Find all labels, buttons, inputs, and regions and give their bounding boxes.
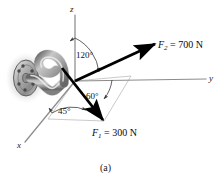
figure-graphics [0,0,221,182]
force-label-F1-subscript: 1 [98,132,102,140]
arc-60 [104,80,112,99]
force-label-F1: F1 = 300 N [92,128,137,138]
angle-label-120: 120° [76,51,93,60]
z-axis-label: z [70,5,74,14]
coordinate-axes [25,15,206,142]
force-label-F2: F2 = 700 N [158,40,203,50]
angle-label-45: 45° [58,107,71,116]
force-label-F2-subscript: 2 [164,44,168,52]
y-axis-label: y [209,74,213,83]
force-label-F1-value: = 300 N [104,127,137,138]
angle-label-60: 60° [86,92,99,101]
force-label-F2-value: = 700 N [170,39,203,50]
figure-caption: (a) [100,163,111,173]
figure-container: z y x 120° 60° 45° F2 = 700 N F1 = 300 N… [0,0,221,182]
arc-120-tick [70,38,75,41]
x-axis-label: x [17,141,21,150]
